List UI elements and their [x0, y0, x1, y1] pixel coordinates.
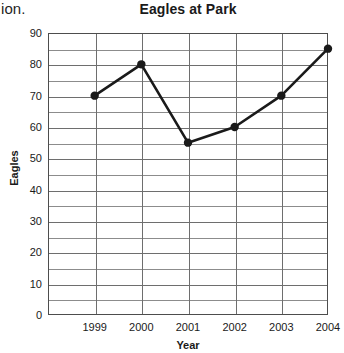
chart-title: Eagles at Park [48, 0, 328, 18]
y-axis-tick-label: 10 [0, 279, 42, 290]
x-axis-tick-label: 2001 [165, 322, 211, 333]
gridline-horizontal-minor [49, 238, 327, 239]
gridline-vertical [236, 34, 237, 314]
gridline-horizontal-minor [49, 81, 327, 82]
gridline-horizontal-major [49, 285, 327, 286]
gridline-horizontal-major [49, 253, 327, 254]
gridline-horizontal-minor [49, 300, 327, 301]
y-axis-tick-label: 40 [0, 185, 42, 196]
plot-area [48, 33, 328, 315]
gridline-horizontal-major [49, 128, 327, 129]
gridline-horizontal-major [49, 222, 327, 223]
gridline-vertical [96, 34, 97, 314]
gridline-horizontal-minor [49, 112, 327, 113]
gridline-horizontal-major [49, 159, 327, 160]
gridline-horizontal-minor [49, 144, 327, 145]
y-axis-tick-label: 50 [0, 153, 42, 164]
gridline-vertical [142, 34, 143, 314]
x-axis-tick-label: 1999 [72, 322, 118, 333]
y-axis-tick-label: 60 [0, 122, 42, 133]
y-axis-tick-label: 0 [0, 310, 42, 321]
y-axis-tick-label: 90 [0, 28, 42, 39]
x-axis-tick-label: 2004 [305, 322, 344, 333]
gridline-vertical [189, 34, 190, 314]
x-axis-tick-label: 2003 [258, 322, 304, 333]
y-axis-tick-label: 80 [0, 59, 42, 70]
gridline-horizontal-minor [49, 175, 327, 176]
chart-page: ion. Eagles at Park 0102030405060708090 … [0, 0, 344, 353]
gridline-horizontal-minor [49, 50, 327, 51]
gridline-horizontal-minor [49, 206, 327, 207]
y-axis-tick-label: 20 [0, 247, 42, 258]
y-axis-tick-label: 70 [0, 91, 42, 102]
gridline-vertical [282, 34, 283, 314]
y-axis-title: Eagles [8, 138, 20, 198]
y-axis-tick-label: 30 [0, 216, 42, 227]
x-axis-tick-label: 2002 [212, 322, 258, 333]
gridline-horizontal-minor [49, 269, 327, 270]
gridline-horizontal-major [49, 191, 327, 192]
gridline-horizontal-major [49, 65, 327, 66]
x-axis-title: Year [48, 339, 328, 351]
gridline-horizontal-major [49, 97, 327, 98]
stray-document-text: ion. [1, 0, 26, 18]
x-axis-tick-label: 2000 [118, 322, 164, 333]
